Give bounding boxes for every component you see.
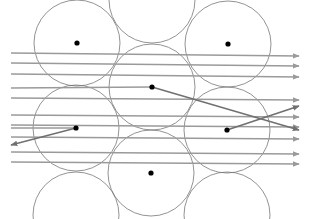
- center-dot: [149, 84, 154, 89]
- circle-packing-ray-diagram: [0, 0, 310, 219]
- circle: [33, 172, 119, 219]
- center-dot: [224, 127, 229, 132]
- rays-layer: [11, 53, 299, 164]
- circle: [184, 172, 270, 219]
- center-dot: [74, 40, 79, 45]
- horizontal-ray-arrow: [11, 152, 299, 154]
- horizontal-ray-arrow: [11, 53, 299, 56]
- center-dot: [73, 125, 78, 130]
- circles-layer: [33, 0, 271, 219]
- circle: [109, 0, 195, 43]
- center-dot: [148, 170, 153, 175]
- horizontal-ray-arrow: [11, 137, 299, 139]
- terminating-ray: [11, 87, 152, 88]
- center-dots-layer: [73, 40, 230, 175]
- horizontal-ray-arrow: [11, 63, 299, 66]
- horizontal-ray-arrow: [11, 125, 299, 127]
- center-dot: [225, 41, 230, 46]
- horizontal-ray-arrow: [11, 74, 299, 77]
